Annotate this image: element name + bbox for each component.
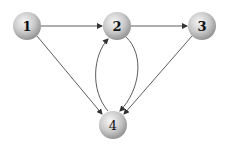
edge-2-4 <box>120 37 138 111</box>
node-1: 1 <box>13 12 41 40</box>
directed-graph: 1 2 3 4 <box>0 0 226 145</box>
svg-text:3: 3 <box>197 19 206 34</box>
node-4: 4 <box>99 111 127 139</box>
node-2: 2 <box>103 12 131 40</box>
svg-text:2: 2 <box>112 19 121 34</box>
edge-4-2 <box>96 39 108 111</box>
node-3: 3 <box>188 12 216 40</box>
edge-1-4 <box>37 36 102 114</box>
svg-text:1: 1 <box>22 19 31 34</box>
svg-text:4: 4 <box>109 118 117 133</box>
